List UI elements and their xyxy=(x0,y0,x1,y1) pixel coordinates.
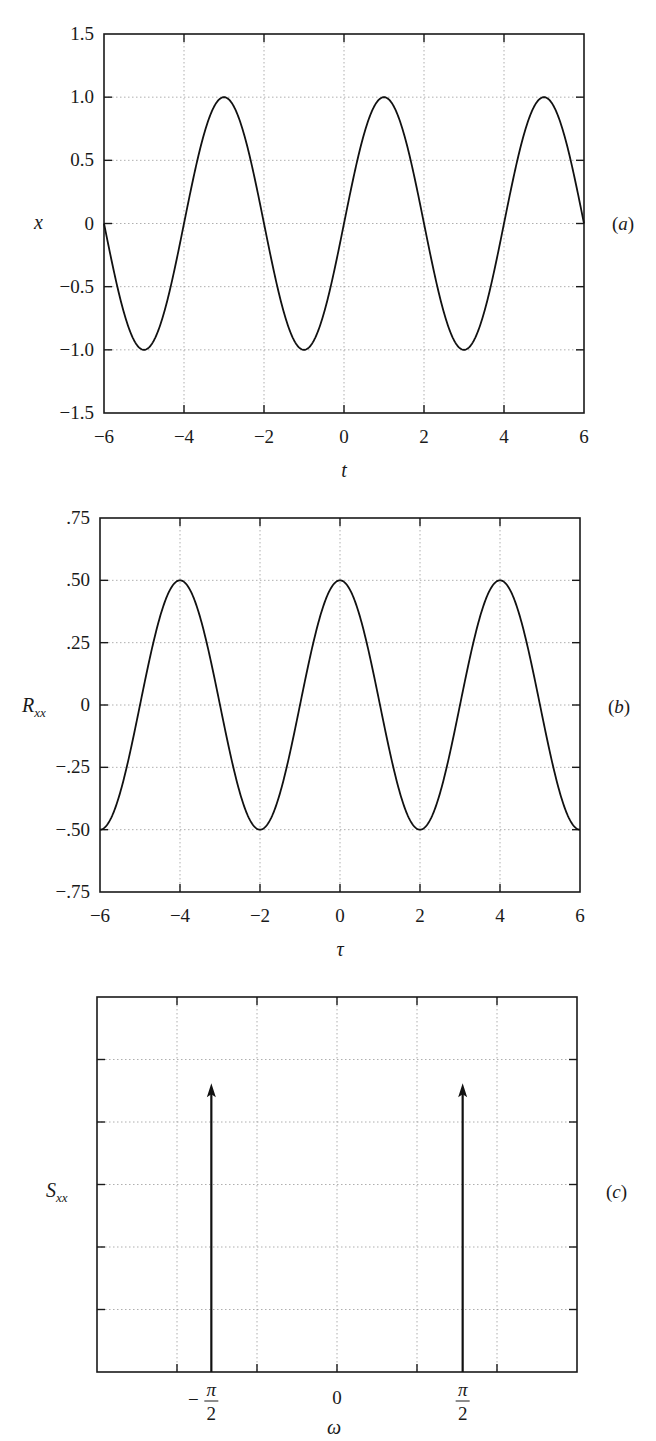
x-tick-label: −4 xyxy=(174,426,195,447)
x-tick-label: −6 xyxy=(94,426,114,447)
y-tick-label: 1.5 xyxy=(70,23,94,44)
x-tick-label: −6 xyxy=(90,905,110,926)
x-axis-label: τ xyxy=(336,938,344,960)
x-tick-label: 0 xyxy=(335,905,345,926)
y-tick-label: −1.5 xyxy=(60,402,94,423)
svg-text:π: π xyxy=(458,1379,468,1400)
panel-label: (b) xyxy=(608,696,630,718)
x-tick-label: 2 xyxy=(415,905,425,926)
x-tick-label: 4 xyxy=(499,426,509,447)
y-tick-label: .50 xyxy=(66,569,90,590)
y-tick-label: −.50 xyxy=(56,819,90,840)
svg-text:2: 2 xyxy=(207,1403,217,1424)
panel-a-signal-plot: 1.51.00.50−0.5−1.0−1.5−6−4−20246xt(a) xyxy=(33,23,634,481)
x-tick-label: 0 xyxy=(332,1387,342,1408)
figure: 1.51.00.50−0.5−1.0−1.5−6−4−20246xt(a) .7… xyxy=(0,0,656,1441)
y-tick-label: 0 xyxy=(81,694,91,715)
x-axis-label: ω xyxy=(327,1416,341,1438)
y-axis-label: Sxx xyxy=(46,1179,68,1205)
y-tick-label: −.75 xyxy=(56,881,90,902)
y-tick-label: .25 xyxy=(66,632,90,653)
y-tick-label: 1.0 xyxy=(70,86,94,107)
svg-text:π: π xyxy=(207,1379,217,1400)
y-axis-label: x xyxy=(33,211,43,233)
x-tick-label-fraction: π2− xyxy=(188,1379,218,1424)
y-tick-label: −0.5 xyxy=(60,276,94,297)
svg-text:−: − xyxy=(188,1389,199,1410)
panel-label: (a) xyxy=(612,213,634,235)
y-tick-label: .75 xyxy=(66,507,90,528)
x-tick-label: 4 xyxy=(495,905,505,926)
x-tick-label: 2 xyxy=(419,426,429,447)
panel-label: (c) xyxy=(606,1181,627,1203)
y-axis-label: Rxx xyxy=(21,694,46,720)
x-tick-label: 6 xyxy=(579,426,589,447)
x-tick-label: 0 xyxy=(339,426,349,447)
x-tick-label: −2 xyxy=(254,426,274,447)
x-tick-label: −4 xyxy=(170,905,191,926)
y-tick-label: 0.5 xyxy=(70,149,94,170)
x-tick-label: 6 xyxy=(575,905,585,926)
y-tick-label: −1.0 xyxy=(60,339,94,360)
y-tick-label: 0 xyxy=(85,213,95,234)
x-tick-label-fraction: π2 xyxy=(456,1379,470,1424)
x-axis-label: t xyxy=(341,459,347,481)
svg-text:2: 2 xyxy=(458,1403,468,1424)
x-tick-label: −2 xyxy=(250,905,270,926)
panel-b-autocorrelation-plot: .75.50.250−.25−.50−.75−6−4−20246Rxxτ(b) xyxy=(21,507,630,960)
y-tick-label: −.25 xyxy=(56,756,90,777)
panel-c-power-spectrum-plot: π2−0π2Sxxω(c) xyxy=(46,997,627,1438)
